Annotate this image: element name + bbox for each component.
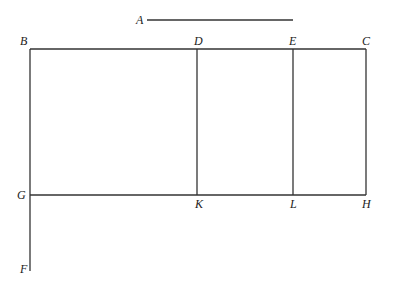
label-h: H bbox=[361, 197, 372, 211]
label-f: F bbox=[19, 262, 28, 276]
label-k: K bbox=[194, 197, 204, 211]
geometry-diagram: A B D E C G K L H F bbox=[0, 0, 393, 287]
label-e: E bbox=[288, 34, 297, 48]
label-a: A bbox=[135, 13, 144, 27]
label-c: C bbox=[362, 34, 371, 48]
label-l: L bbox=[289, 197, 297, 211]
label-g: G bbox=[17, 188, 26, 202]
label-d: D bbox=[193, 34, 203, 48]
label-b: B bbox=[20, 34, 28, 48]
